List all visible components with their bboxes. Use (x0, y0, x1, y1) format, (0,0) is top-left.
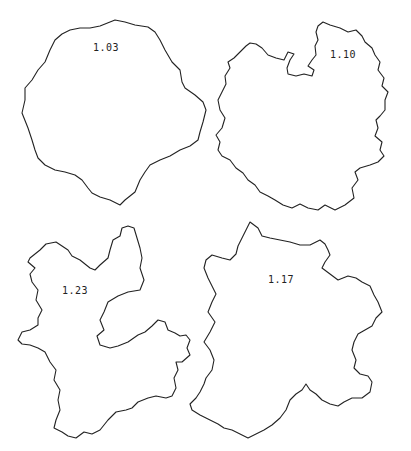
shape-1-10-outline (216, 22, 388, 210)
fractal-dimension-label: 1.10 (330, 49, 356, 60)
shape-1-23-outline (18, 226, 190, 438)
fractal-dimension-label: 1.23 (62, 285, 88, 296)
fractal-dimension-label: 1.03 (93, 42, 119, 53)
fractal-dimension-label: 1.17 (268, 274, 294, 285)
figure-canvas (0, 0, 411, 451)
shape-1-17-outline (190, 222, 382, 438)
